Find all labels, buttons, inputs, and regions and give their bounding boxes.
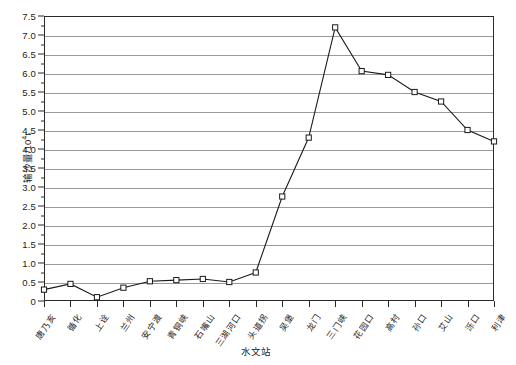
x-axis-tick-mark xyxy=(441,301,442,307)
x-axis-tick-label: 吴堡 xyxy=(276,311,297,333)
data-point-marker xyxy=(41,287,46,292)
x-axis-tick-mark xyxy=(70,301,71,307)
x-axis-tick-label: 艾山 xyxy=(434,311,455,333)
chart-figure: 00.51.01.52.02.53.03.54.04.55.05.56.06.5… xyxy=(0,0,516,365)
y-axis-tick-label: 6.0 xyxy=(22,68,36,79)
x-axis-tick-label: 兰州 xyxy=(117,311,138,333)
y-axis-tick-label: 0.5 xyxy=(22,277,36,288)
x-axis-tick-label: 三门峡 xyxy=(323,311,349,341)
data-point-marker xyxy=(386,72,391,77)
x-axis-tick-mark xyxy=(388,301,389,307)
x-axis-tick-label: 泺口 xyxy=(461,311,482,333)
x-axis-tick-mark xyxy=(415,301,416,307)
y-axis-tick-label: 7.5 xyxy=(22,11,36,22)
data-point-marker xyxy=(465,127,470,132)
x-axis-tick-mark xyxy=(44,301,45,307)
x-axis-tick-label: 利津 xyxy=(487,311,508,333)
x-axis-tick-label: 孙口 xyxy=(408,311,429,333)
y-axis-tick-label: 0 xyxy=(31,296,36,307)
data-point-marker xyxy=(174,278,179,283)
series-line xyxy=(44,27,494,297)
y-axis-tick-label: 6.5 xyxy=(22,49,36,60)
data-point-marker xyxy=(227,279,232,284)
data-point-marker xyxy=(359,69,364,74)
data-point-marker xyxy=(280,194,285,199)
data-point-marker xyxy=(412,89,417,94)
data-point-marker xyxy=(147,279,152,284)
x-axis-tick-label: 循化 xyxy=(64,311,85,333)
x-axis-tick-label: 唐乃亥 xyxy=(32,311,58,341)
x-axis-tick-mark xyxy=(203,301,204,307)
x-axis-tick-mark xyxy=(468,301,469,307)
y-axis-tick-label: 2.5 xyxy=(22,201,36,212)
y-axis-title: 输沙量/104t xyxy=(20,133,34,183)
data-point-marker xyxy=(491,139,496,144)
x-axis-tick-mark xyxy=(309,301,310,307)
x-axis-tick-label: 石嘴山 xyxy=(191,311,217,341)
x-axis-tick-mark xyxy=(97,301,98,307)
y-axis-tick-label: 7.0 xyxy=(22,30,36,41)
data-point-marker xyxy=(121,285,126,290)
x-axis-tick-label: 高村 xyxy=(381,311,402,333)
x-axis-tick-label: 花园口 xyxy=(350,311,376,341)
y-axis-title-unit: t xyxy=(22,133,33,136)
x-axis-tick-label: 龙门 xyxy=(302,311,323,333)
x-axis-tick-mark xyxy=(362,301,363,307)
x-axis-tick-label: 上诠 xyxy=(90,311,111,333)
x-axis-tick-mark xyxy=(494,301,495,307)
x-axis-tick-mark xyxy=(150,301,151,307)
data-point-marker xyxy=(306,135,311,140)
y-axis-tick-label: 3.0 xyxy=(22,182,36,193)
x-axis-tick-mark xyxy=(335,301,336,307)
data-point-marker xyxy=(68,281,73,286)
data-point-marker xyxy=(200,276,205,281)
y-axis-tick-label: 1.0 xyxy=(22,258,36,269)
x-axis-tick-mark xyxy=(176,301,177,307)
data-point-marker xyxy=(253,270,258,275)
y-axis-title-exponent: 4 xyxy=(21,136,28,140)
y-axis-tick-label: 2.0 xyxy=(22,220,36,231)
y-axis-title-base: 输沙量/10 xyxy=(22,140,33,183)
x-axis-tick-label: 头道拐 xyxy=(244,311,270,341)
x-axis-tick-mark xyxy=(123,301,124,307)
data-point-marker xyxy=(94,295,99,300)
x-axis-tick-mark xyxy=(229,301,230,307)
x-axis-tick-label: 三湖河口 xyxy=(212,311,243,348)
y-axis-tick-label: 5.5 xyxy=(22,87,36,98)
data-point-marker xyxy=(333,25,338,30)
x-axis-tick-mark xyxy=(256,301,257,307)
y-axis-tick-label: 5.0 xyxy=(22,106,36,117)
series-markers xyxy=(41,25,496,300)
x-axis-title: 水文站 xyxy=(241,344,271,358)
x-axis-tick-label: 青铜峡 xyxy=(164,311,190,341)
x-axis-tick-mark xyxy=(282,301,283,307)
y-axis-tick-label: 1.5 xyxy=(22,239,36,250)
data-point-marker xyxy=(438,99,443,104)
data-series xyxy=(44,16,494,301)
x-axis-tick-label: 安宁渡 xyxy=(138,311,164,341)
